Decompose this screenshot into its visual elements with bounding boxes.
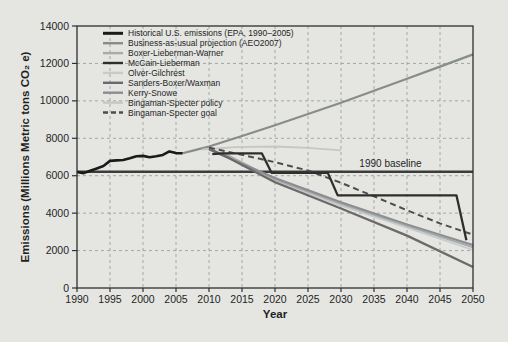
y-tick-label: 2000 bbox=[46, 244, 70, 256]
y-tick-label: 14000 bbox=[40, 20, 69, 32]
legend-item-historical: Historical U.S. emissions (EPA, 1990–200… bbox=[103, 28, 294, 38]
x-tick-label: 2050 bbox=[461, 293, 485, 305]
y-tick-label: 0 bbox=[63, 282, 69, 294]
x-tick-label: 2005 bbox=[164, 293, 188, 305]
x-tick-label: 2015 bbox=[230, 293, 254, 305]
y-tick-label: 8000 bbox=[46, 132, 70, 144]
x-tick-label: 2025 bbox=[296, 293, 320, 305]
legend-label-historical: Historical U.S. emissions (EPA, 1990–200… bbox=[128, 28, 294, 38]
y-axis-title: Emissions (Millions Metric tons CO₂ e) bbox=[19, 51, 31, 262]
legend-label-boxer_lieberman_warner: Boxer-Lieberman-Warner bbox=[128, 48, 224, 58]
x-tick-label: 2020 bbox=[263, 293, 287, 305]
x-tick-label: 2035 bbox=[362, 293, 386, 305]
y-tick-label: 10000 bbox=[40, 94, 69, 106]
x-tick-label: 1990 bbox=[65, 293, 89, 305]
x-tick-label: 2040 bbox=[395, 293, 419, 305]
x-tick-label: 2030 bbox=[329, 293, 353, 305]
x-axis-title: Year bbox=[263, 308, 288, 320]
legend-label-bingaman_specter_goal: Bingaman-Specter goal bbox=[128, 108, 217, 118]
x-tick-label: 2045 bbox=[428, 293, 452, 305]
legend-label-kerry_snowe: Kerry-Snowe bbox=[128, 88, 177, 98]
y-tick-label: 6000 bbox=[46, 169, 70, 181]
emissions-comparison-chart: 1990199520002005201020152020202520302035… bbox=[0, 0, 508, 342]
x-tick-label: 2010 bbox=[197, 293, 221, 305]
y-tick-label: 12000 bbox=[40, 57, 69, 69]
legend-label-mccain_lieberman: McCain-Lieberman bbox=[128, 58, 200, 68]
legend-label-olver_gilchrest: Olver-Gilchrest bbox=[128, 68, 185, 78]
x-tick-label: 1995 bbox=[98, 293, 122, 305]
legend-label-sanders_boxer_waxman: Sanders-Boxer/Waxman bbox=[128, 78, 221, 88]
legend-label-bau: Business-as-usual projection (AEO2007) bbox=[128, 38, 282, 48]
legend-label-bingaman_specter_policy: Bingaman-Specter policy bbox=[128, 98, 223, 108]
baseline-annotation: 1990 baseline bbox=[359, 158, 422, 169]
y-tick-label: 4000 bbox=[46, 207, 70, 219]
x-tick-label: 2000 bbox=[131, 293, 155, 305]
legend-item-bau: Business-as-usual projection (AEO2007) bbox=[103, 38, 282, 48]
